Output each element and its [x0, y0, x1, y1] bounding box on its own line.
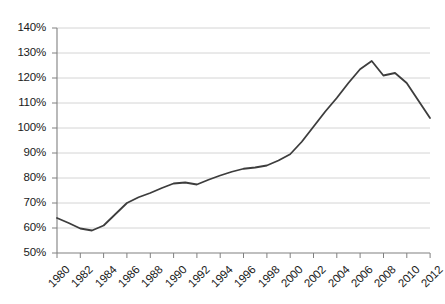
y-axis-ticks — [52, 28, 57, 253]
data-series-line — [57, 61, 430, 231]
gridlines — [57, 28, 430, 228]
x-axis-ticks — [57, 253, 430, 258]
